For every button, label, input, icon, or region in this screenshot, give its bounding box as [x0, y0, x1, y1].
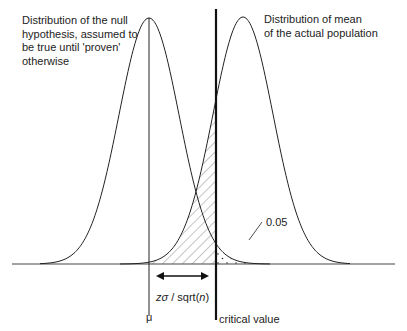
critical-value-label: critical value — [219, 313, 280, 327]
actual-distribution-curve — [120, 17, 350, 264]
distance-prefix: zσ — [156, 291, 168, 303]
distance-label: zσ / sqrt(n) — [156, 291, 209, 305]
distance-suffix: ) — [205, 291, 209, 303]
distance-mid: / sqrt( — [168, 291, 199, 303]
null-distribution-label: Distribution of the null hypothesis, ass… — [22, 14, 138, 68]
distance-arrow — [156, 272, 209, 280]
dotted-alpha-region — [216, 244, 290, 264]
alpha-leader-line — [249, 222, 262, 240]
alpha-label: 0.05 — [266, 216, 287, 230]
mu-label: μ — [146, 311, 152, 325]
actual-distribution-label: Distribution of mean of the actual popul… — [264, 13, 378, 40]
hatched-beta-region — [149, 99, 216, 264]
